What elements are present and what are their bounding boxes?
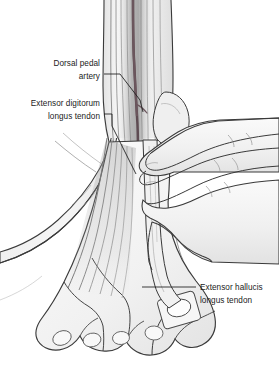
medical-illustration-figure: Dorsal pedal artery Extensor digitorum l… [0, 0, 279, 381]
label-extensor-hallucis-longus-line2: longus tendon [200, 296, 252, 305]
anatomy-illustration-canvas: Dorsal pedal artery Extensor digitorum l… [0, 0, 279, 381]
label-extensor-hallucis-longus-line1: Extensor hallucis [200, 283, 263, 292]
label-dorsal-pedal-artery-line1: Dorsal pedal [53, 59, 100, 68]
label-extensor-digitorum-longus-line2: longus tendon [48, 112, 100, 121]
label-dorsal-pedal-artery-line2: artery [79, 72, 101, 81]
label-extensor-digitorum-longus-line1: Extensor digitorum [31, 99, 100, 108]
